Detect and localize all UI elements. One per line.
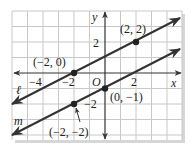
- x-tick-neg4: −4: [29, 75, 42, 89]
- label-point-neg2-neg2: (−2, −2): [49, 125, 89, 139]
- line-l-label: ℓ: [16, 83, 21, 97]
- point-neg2-neg2: [71, 101, 77, 107]
- label-point-neg2-0: (−2, 0): [33, 55, 66, 69]
- label-point-0-neg1: (0, −1): [110, 90, 143, 104]
- line-m-label: m: [14, 114, 23, 128]
- x-axis-label: x: [170, 76, 177, 90]
- x-tick-neg2: −2: [62, 75, 75, 89]
- y-tick-neg2: −2: [84, 97, 97, 111]
- point-0-neg1: [102, 85, 108, 91]
- coordinate-plane: y x O −4 −2 2 2 −2 (2, 2) (−2, 0) (0, −1…: [0, 0, 194, 150]
- label-point-2-2: (2, 2): [120, 22, 146, 36]
- y-axis-label: y: [91, 10, 98, 24]
- point-2-2: [133, 39, 139, 45]
- y-tick-2: 2: [93, 36, 99, 50]
- origin-label: O: [92, 75, 101, 89]
- x-tick-2: 2: [131, 75, 137, 89]
